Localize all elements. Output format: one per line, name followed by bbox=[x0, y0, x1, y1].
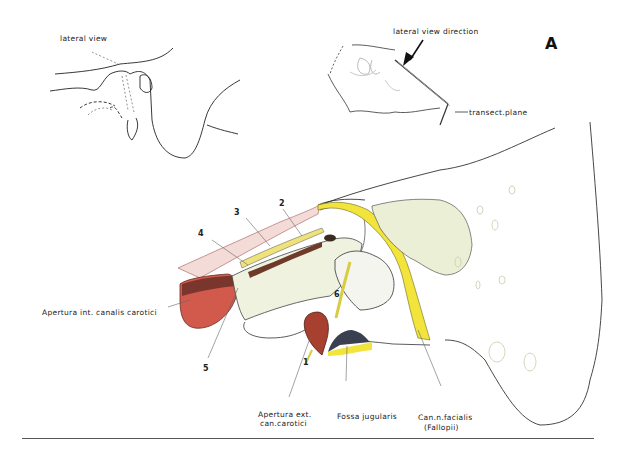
number-4: 4 bbox=[198, 229, 204, 238]
plate-letter: A bbox=[545, 34, 557, 53]
apertura-ext-carotid bbox=[304, 312, 328, 355]
apertura-ext-label-line2: can.carotici bbox=[260, 419, 307, 428]
lateral-direction-sketch bbox=[328, 45, 468, 125]
number-5: 5 bbox=[203, 364, 209, 373]
mastoid-region bbox=[372, 199, 472, 275]
number-3: 3 bbox=[234, 208, 240, 217]
number-6: 6 bbox=[334, 290, 340, 299]
lateral-view-label: lateral view bbox=[60, 34, 107, 43]
number-1: 1 bbox=[303, 358, 309, 367]
bottom-rule bbox=[22, 438, 594, 439]
apertura-ext-label-line1: Apertura ext. bbox=[258, 410, 312, 419]
anatomical-illustration bbox=[0, 0, 624, 464]
number-2: 2 bbox=[279, 199, 285, 208]
can-facialis-label-line1: Can.n.facialis bbox=[418, 413, 472, 422]
direction-arrow-icon bbox=[403, 40, 423, 66]
transect-plane-label: transect.plane bbox=[469, 108, 527, 117]
can-facialis-label-line2: (Fallopii) bbox=[424, 423, 459, 432]
lateral-view-direction-label: lateral view direction bbox=[393, 27, 479, 36]
lateral-view-sketch bbox=[50, 48, 240, 158]
apertura-int-label: Apertura int. canalis carotici bbox=[42, 308, 157, 317]
fossa-jugularis-label: Fossa jugularis bbox=[337, 412, 397, 421]
